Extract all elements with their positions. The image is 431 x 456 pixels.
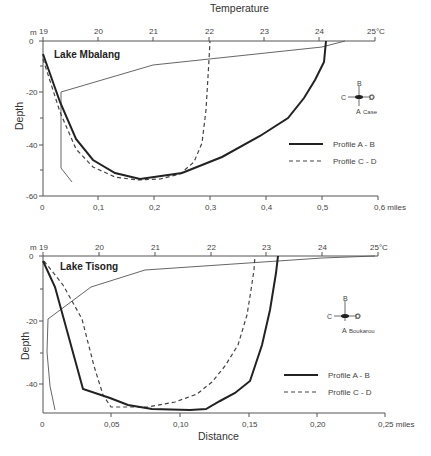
dist-tick-0-15: 0,15 <box>242 420 258 429</box>
legend-profile-c-d: Profile C - D <box>333 157 377 166</box>
temperature-ticks <box>43 37 375 41</box>
depth-tick-20: -20 <box>26 88 38 97</box>
legend-profile-a-b: Profile A - B <box>333 140 375 149</box>
temp-tick-20: 20 <box>94 27 103 36</box>
compass-site-label: Case <box>363 109 378 115</box>
legend: Profile A - B Profile C - D <box>284 371 372 397</box>
temp-tick-20: 20 <box>95 243 104 252</box>
depth-tick-40: -40 <box>26 141 38 150</box>
legend: Profile A - B Profile C - D <box>289 140 377 166</box>
dist-tick-0-05: 0,05 <box>104 420 120 429</box>
compass-south-label: A <box>342 327 347 334</box>
dist-tick-0-20: 0,20 <box>310 420 326 429</box>
temperature-axis-title: Temperature <box>210 2 269 14</box>
depth-tick-0: 0 <box>29 252 34 261</box>
temp-tick-24: 24 <box>318 243 327 252</box>
depth-axis-title: Depth <box>13 102 25 130</box>
dist-tick-0-1: 0,1 <box>93 203 105 212</box>
profile-a-b-line <box>43 256 278 410</box>
depth-tick-20: -20 <box>26 317 38 326</box>
compass-south-label: A <box>356 108 361 115</box>
compass-case: B C D A Case <box>341 80 378 115</box>
dist-tick-0-3: 0,3 <box>205 203 217 212</box>
dist-tick-0-6: 0,6 miles <box>374 203 406 212</box>
dist-tick-0-2: 0,2 <box>149 203 161 212</box>
compass-west-label: C <box>341 94 346 101</box>
lake-title: Lake Tisong <box>60 261 118 272</box>
temp-tick-19: 19 <box>39 243 48 252</box>
dist-tick-0: 0 <box>40 203 45 212</box>
depth-axis-title: Depth <box>19 332 31 360</box>
temp-tick-21: 21 <box>149 27 158 36</box>
depth-tick-60: -60 <box>26 192 38 201</box>
depth-tick-0: 0 <box>29 37 34 46</box>
chart-lake-tisong: 19 20 21 22 23 24 25°C m 0 -20 -40 Depth… <box>19 243 414 442</box>
depth-unit: m <box>30 243 37 252</box>
temp-tick-22: 22 <box>207 243 216 252</box>
dist-tick-0-10: 0,10 <box>173 420 189 429</box>
temp-tick-25: 25°C <box>367 27 385 36</box>
compass-east-label: D <box>355 313 360 320</box>
depth-tick-40: -40 <box>26 380 38 389</box>
temp-tick-23: 23 <box>260 27 269 36</box>
compass-west-label: C <box>327 313 332 320</box>
bathymetry-figure: Temperature 19 20 21 22 23 24 25°C m 0 -… <box>0 0 431 456</box>
dist-tick-0-5: 0,5 <box>317 203 329 212</box>
compass-north-label: B <box>357 80 362 87</box>
compass-site-label: Boukarou <box>349 328 375 334</box>
temp-tick-21: 21 <box>151 243 160 252</box>
temp-tick-19: 19 <box>39 27 48 36</box>
temp-tick-23: 23 <box>262 243 271 252</box>
depth-unit: m <box>30 28 37 37</box>
dist-tick-0-25: 0,25 miles <box>378 420 414 429</box>
compass-east-label: D <box>369 94 374 101</box>
distance-axis-title: Distance <box>198 430 239 442</box>
lake-title: Lake Mbalang <box>54 49 120 60</box>
legend-profile-c-d: Profile C - D <box>328 388 372 397</box>
compass-boukarou: B C D A Boukarou <box>327 295 375 334</box>
temp-tick-24: 24 <box>315 27 324 36</box>
compass-north-label: B <box>343 295 348 302</box>
temperature-profile-line <box>47 256 375 410</box>
temp-tick-25: 25°C <box>370 243 388 252</box>
dist-tick-0: 0 <box>40 420 45 429</box>
chart-lake-mbalang: Temperature 19 20 21 22 23 24 25°C m 0 -… <box>13 2 406 212</box>
dist-tick-0-4: 0,4 <box>261 203 273 212</box>
legend-profile-a-b: Profile A - B <box>328 371 370 380</box>
temp-tick-22: 22 <box>205 27 214 36</box>
profile-c-d-line <box>44 256 255 407</box>
temperature-profile-line <box>61 41 345 182</box>
